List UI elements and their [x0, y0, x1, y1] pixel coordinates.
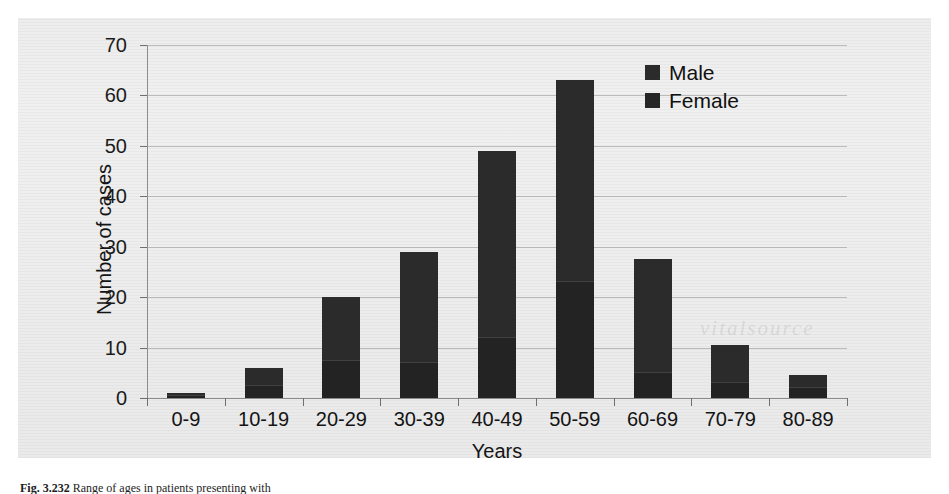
x-tick-mark: [303, 398, 304, 406]
bar-segment-female: [556, 281, 594, 398]
bar-segment-female: [167, 395, 205, 398]
bar-stack: [322, 297, 360, 398]
bar-stack: [789, 375, 827, 398]
bar-segment-female: [711, 382, 749, 398]
bar-segment-female: [322, 360, 360, 398]
x-tick-mark: [847, 398, 848, 406]
y-tick-label: 60: [81, 85, 127, 105]
bar-segment-male: [556, 80, 594, 281]
bar-segment-female: [634, 372, 672, 398]
y-tick-label: 30: [81, 237, 127, 257]
x-tick-mark: [458, 398, 459, 406]
y-tick-label: 0: [81, 388, 127, 408]
x-category-label: 30-39: [380, 408, 458, 431]
bar-segment-female: [245, 385, 283, 398]
bar-stack: [400, 252, 438, 398]
y-tick-mark: [140, 196, 147, 197]
bar-stack: [478, 151, 516, 398]
figure-caption: Fig. 3.232 Range of ages in patients pre…: [20, 481, 920, 494]
x-tick-mark: [614, 398, 615, 406]
bar-segment-male: [400, 252, 438, 362]
y-tick-mark: [140, 348, 147, 349]
y-tick-label: 20: [81, 287, 127, 307]
gridline: [147, 398, 847, 399]
x-category-label: 20-29: [303, 408, 381, 431]
y-tick-mark: [140, 146, 147, 147]
x-category-label: 50-59: [536, 408, 614, 431]
legend: Male Female: [645, 62, 739, 118]
bar-segment-male: [711, 345, 749, 382]
figure-caption-body: Range of ages in patients presenting wit…: [73, 481, 271, 494]
legend-swatch-female-icon: [645, 93, 660, 108]
figure-caption-text: Fig. 3.232 Range of ages in patients pre…: [20, 481, 920, 494]
figure-caption-label: Fig. 3.232: [20, 481, 70, 494]
bar-segment-male: [789, 375, 827, 387]
x-category-label: 40-49: [458, 408, 536, 431]
bar-segment-male: [634, 259, 672, 372]
bar-stack: [556, 80, 594, 398]
x-tick-mark: [225, 398, 226, 406]
legend-item-female: Female: [645, 90, 739, 111]
y-tick-label: 10: [81, 338, 127, 358]
x-tick-mark: [147, 398, 148, 406]
y-tick-label: 40: [81, 186, 127, 206]
bar-stack: [167, 393, 205, 398]
y-tick-mark: [140, 398, 147, 399]
legend-label-female: Female: [669, 90, 739, 111]
legend-swatch-male-icon: [645, 65, 660, 80]
x-category-label: 80-89: [769, 408, 847, 431]
y-tick-mark: [140, 247, 147, 248]
bar-segment-female: [400, 362, 438, 398]
x-category-label: 0-9: [147, 408, 225, 431]
legend-label-male: Male: [669, 62, 715, 83]
plot-area: [147, 45, 847, 398]
x-category-label: 60-69: [614, 408, 692, 431]
y-tick-mark: [140, 45, 147, 46]
x-tick-mark: [691, 398, 692, 406]
bar-segment-female: [478, 337, 516, 398]
x-tick-mark: [380, 398, 381, 406]
y-tick-mark: [140, 297, 147, 298]
x-category-label: 10-19: [225, 408, 303, 431]
x-tick-mark: [536, 398, 537, 406]
bar-stack: [634, 259, 672, 398]
bar-stack: [245, 368, 283, 398]
bar-segment-female: [789, 387, 827, 398]
y-tick-label: 50: [81, 136, 127, 156]
x-axis-title: Years: [147, 440, 847, 463]
figure-container: vitalsource Number of cases 010203040506…: [0, 0, 949, 494]
bar-stack: [711, 345, 749, 398]
bar-segment-male: [478, 151, 516, 337]
legend-item-male: Male: [645, 62, 739, 83]
x-category-label: 70-79: [691, 408, 769, 431]
y-tick-label: 70: [81, 35, 127, 55]
y-tick-mark: [140, 95, 147, 96]
x-tick-mark: [769, 398, 770, 406]
y-axis-title-wrapper: Number of cases: [40, 90, 70, 350]
bar-segment-male: [322, 297, 360, 359]
bar-segment-male: [245, 368, 283, 385]
